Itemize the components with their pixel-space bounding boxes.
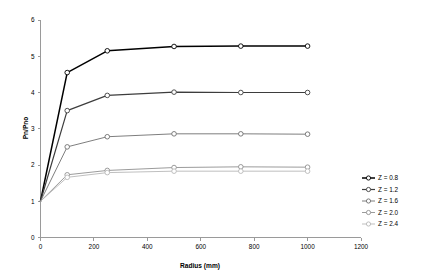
legend-marker: [366, 222, 370, 226]
chart-container: 0123456 020040060080010001200 Radius (mm…: [0, 0, 441, 278]
data-point-marker: [65, 175, 70, 180]
y-tick-label: 4: [31, 89, 35, 96]
x-tick-label: 0: [39, 243, 43, 250]
x-tick-label: 800: [249, 243, 260, 250]
data-point-marker: [172, 44, 177, 49]
x-tick-label: 600: [195, 243, 206, 250]
x-tick-label: 1200: [354, 243, 369, 250]
y-tick-label: 6: [31, 16, 35, 23]
legend-item-0[interactable]: Z = 0.8: [362, 174, 399, 181]
data-point-marker: [105, 93, 110, 98]
data-point-marker: [239, 44, 244, 49]
data-point-marker: [305, 169, 310, 174]
legend-label: Z = 1.6: [378, 197, 399, 204]
x-axis-ticks: 020040060080010001200: [39, 238, 369, 250]
y-tick-label: 1: [31, 198, 35, 205]
y-tick-label: 3: [31, 125, 35, 132]
data-point-marker: [172, 90, 177, 95]
x-tick-label: 400: [142, 243, 153, 250]
y-axis-title: Pn/Pno: [22, 117, 29, 140]
series-line: [41, 171, 308, 201]
line-chart: 0123456 020040060080010001200 Radius (mm…: [0, 0, 441, 278]
legend-item-2[interactable]: Z = 1.6: [362, 197, 399, 204]
x-axis-title: Radius (mm): [180, 262, 220, 270]
series-group: [41, 44, 310, 201]
legend-marker: [366, 187, 370, 191]
legend-marker: [366, 210, 370, 214]
legend-label: Z = 1.2: [378, 186, 399, 193]
legend-item-3[interactable]: Z = 2.0: [362, 209, 399, 216]
series-1: [41, 90, 310, 201]
y-tick-label: 0: [31, 234, 35, 241]
legend-marker: [366, 176, 370, 180]
series-line: [41, 92, 308, 201]
legend-label: Z = 2.4: [378, 220, 399, 227]
chart-legend: Z = 0.8Z = 1.2Z = 1.6Z = 2.0Z = 2.4: [362, 174, 399, 227]
legend-item-4[interactable]: Z = 2.4: [362, 220, 399, 227]
data-point-marker: [105, 170, 110, 175]
legend-marker: [366, 199, 370, 203]
x-tick-label: 1000: [300, 243, 315, 250]
data-point-marker: [105, 134, 110, 139]
data-point-marker: [305, 132, 310, 137]
legend-label: Z = 0.8: [378, 174, 399, 181]
data-point-marker: [105, 49, 110, 54]
data-point-marker: [172, 132, 177, 137]
y-axis-ticks: 0123456: [31, 16, 41, 241]
legend-item-1[interactable]: Z = 1.2: [362, 186, 399, 193]
data-point-marker: [65, 70, 70, 75]
legend-label: Z = 2.0: [378, 209, 399, 216]
data-point-marker: [65, 108, 70, 113]
data-point-marker: [305, 44, 310, 49]
plot-area: [41, 20, 362, 238]
data-point-marker: [65, 145, 70, 150]
y-tick-label: 2: [31, 161, 35, 168]
series-line: [41, 46, 308, 201]
data-point-marker: [239, 90, 244, 95]
data-point-marker: [305, 90, 310, 95]
y-tick-label: 5: [31, 53, 35, 60]
series-0: [41, 44, 310, 201]
data-point-marker: [239, 132, 244, 137]
data-point-marker: [172, 169, 177, 174]
data-point-marker: [239, 169, 244, 174]
x-tick-label: 200: [89, 243, 100, 250]
